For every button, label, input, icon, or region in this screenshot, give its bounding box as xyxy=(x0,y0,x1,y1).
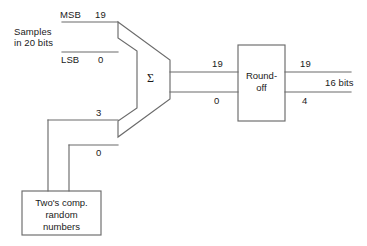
msb-label: MSB xyxy=(60,9,81,20)
msb-index-label: 19 xyxy=(95,9,106,20)
output-width-label: 16 bits xyxy=(325,77,354,88)
twos-complement-line1: Two's comp. xyxy=(35,197,88,208)
summer-body xyxy=(118,22,170,137)
adder-output-lsb-label: 0 xyxy=(214,95,219,106)
dither-msb-index-label: 3 xyxy=(96,107,101,118)
twos-complement-label: Two's comp. random numbers xyxy=(22,197,101,233)
sample-source-line1: Samples xyxy=(14,26,52,37)
sample-source-label: Samples in 20 bits xyxy=(14,26,53,48)
output-lsb-label: 4 xyxy=(302,95,307,106)
roundoff-label-line1: Round- xyxy=(246,70,277,81)
dither-lsb-index-label: 0 xyxy=(96,147,101,158)
signal-flow-diagram: Samples in 20 bits MSB 19 LSB 0 3 0 Σ 19… xyxy=(0,0,367,246)
sigma-symbol: Σ xyxy=(147,71,154,86)
lsb-label: LSB xyxy=(61,54,79,65)
sample-source-line2: in 20 bits xyxy=(14,37,53,48)
adder-output-msb-label: 19 xyxy=(212,58,223,69)
twos-complement-line2: random xyxy=(45,209,77,220)
roundoff-label-line2: off xyxy=(256,82,266,93)
lsb-index-label: 0 xyxy=(98,54,103,65)
roundoff-label: Round- off xyxy=(238,70,285,94)
output-msb-label: 19 xyxy=(300,58,311,69)
twos-complement-line3: numbers xyxy=(43,221,80,232)
